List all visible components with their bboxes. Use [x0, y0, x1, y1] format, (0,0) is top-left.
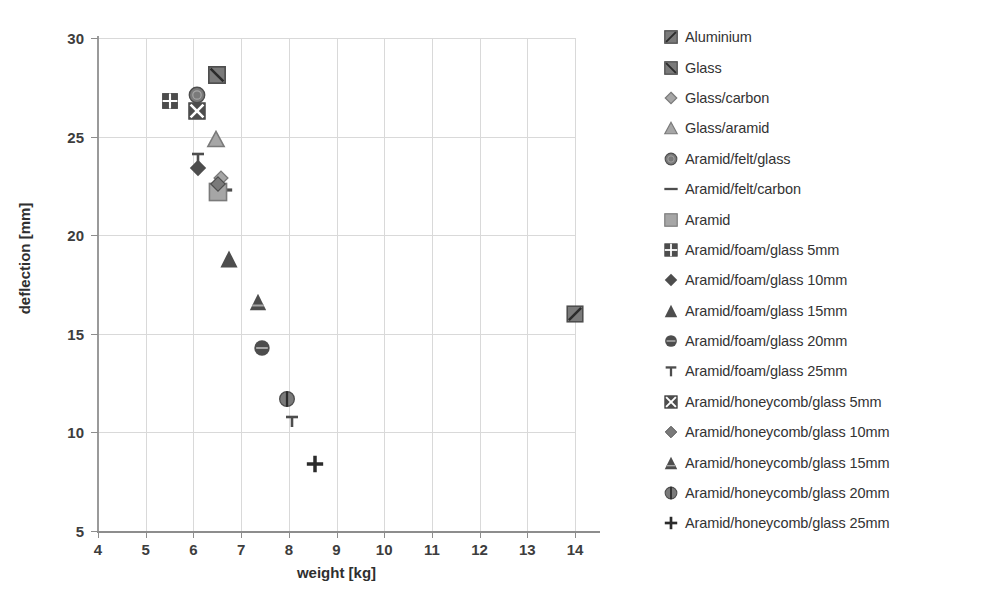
legend-marker-diamond-mid-icon	[660, 421, 682, 443]
gridline-vertical	[480, 38, 481, 531]
legend-item[interactable]: Aramid/honeycomb/glass 25mm	[660, 508, 1004, 538]
plot-area: 4567891011121314 51015202530 weight [kg]…	[0, 0, 660, 616]
legend-item[interactable]: Aramid/honeycomb/glass 10mm	[660, 417, 1004, 447]
x-tick	[432, 531, 433, 538]
legend-item-label: Aramid/foam/glass 20mm	[685, 333, 847, 349]
legend-item[interactable]: Aramid/foam/glass 10mm	[660, 265, 1004, 295]
x-tick	[575, 531, 576, 538]
legend-item[interactable]: Glass/carbon	[660, 83, 1004, 113]
legend: AluminiumGlassGlass/carbonGlass/aramidAr…	[660, 22, 1004, 539]
x-tick	[193, 531, 194, 538]
legend-item-label: Aluminium	[685, 29, 752, 45]
legend-item-label: Aramid/honeycomb/glass 25mm	[685, 515, 889, 531]
legend-item-label: Aramid/foam/glass 5mm	[685, 242, 839, 258]
x-tick	[241, 531, 242, 538]
legend-marker-diamond-open-icon	[660, 87, 682, 109]
x-tick	[384, 531, 385, 538]
gridline-horizontal	[98, 334, 575, 335]
legend-item[interactable]: Aramid/felt/carbon	[660, 174, 1004, 204]
gridline-vertical	[337, 38, 338, 531]
y-axis-line	[97, 36, 99, 533]
x-tick-label: 9	[332, 541, 340, 558]
x-tick	[289, 531, 290, 538]
y-tick-label: 30	[67, 30, 84, 47]
legend-item-label: Aramid	[685, 212, 730, 228]
x-tick-label: 4	[94, 541, 102, 558]
y-tick-label: 15	[67, 325, 84, 342]
legend-item[interactable]: Aramid/foam/glass 5mm	[660, 235, 1004, 265]
legend-item[interactable]: Aramid/foam/glass 20mm	[660, 326, 1004, 356]
legend-item[interactable]: Aramid/foam/glass 25mm	[660, 356, 1004, 386]
legend-marker-circle-open-icon	[660, 148, 682, 170]
legend-item-label: Aramid/felt/carbon	[685, 181, 801, 197]
legend-item[interactable]: Aramid/honeycomb/glass 15mm	[660, 447, 1004, 477]
x-tick-label: 13	[519, 541, 536, 558]
x-tick-label: 12	[471, 541, 488, 558]
x-tick	[146, 531, 147, 538]
y-tick-label: 10	[67, 424, 84, 441]
legend-marker-square-fill-icon	[660, 209, 682, 231]
legend-marker-plus-icon	[660, 512, 682, 534]
x-axis-title: weight [kg]	[98, 564, 575, 581]
legend-item-label: Aramid/foam/glass 15mm	[685, 303, 847, 319]
data-point-square-diag-icon	[565, 304, 585, 324]
plot-canvas	[98, 38, 575, 531]
legend-marker-triangle-open-icon	[660, 117, 682, 139]
legend-item[interactable]: Aramid/honeycomb/glass 5mm	[660, 387, 1004, 417]
legend-item[interactable]: Aramid/honeycomb/glass 20mm	[660, 478, 1004, 508]
gridline-horizontal	[98, 137, 575, 138]
x-tick-label: 7	[237, 541, 245, 558]
legend-item-label: Aramid/felt/glass	[685, 151, 790, 167]
legend-marker-diamond-fill-icon	[660, 269, 682, 291]
y-tick	[91, 531, 98, 532]
chart-root: 4567891011121314 51015202530 weight [kg]…	[0, 0, 1004, 616]
data-point-plus-icon	[304, 453, 325, 474]
legend-item-label: Glass/carbon	[685, 90, 769, 106]
x-tick	[98, 531, 99, 538]
y-tick	[91, 137, 98, 138]
legend-marker-tee-icon	[660, 360, 682, 382]
legend-item[interactable]: Glass	[660, 52, 1004, 82]
x-axis-line	[97, 531, 600, 533]
legend-item[interactable]: Aramid	[660, 204, 1004, 234]
legend-marker-triangle-fill-icon	[660, 300, 682, 322]
data-point-square-plus-icon	[160, 92, 179, 111]
x-tick	[480, 531, 481, 538]
x-tick-label: 11	[424, 541, 440, 558]
legend-item[interactable]: Aluminium	[660, 22, 1004, 52]
gridline-vertical	[384, 38, 385, 531]
legend-item[interactable]: Aramid/felt/glass	[660, 144, 1004, 174]
gridline-vertical	[146, 38, 147, 531]
legend-item-label: Aramid/honeycomb/glass 5mm	[685, 394, 881, 410]
legend-marker-triangle-shade-icon	[660, 452, 682, 474]
data-point-square-backdiag-icon	[207, 65, 228, 86]
data-point-circle-half-icon	[277, 389, 297, 409]
x-tick-label: 8	[285, 541, 293, 558]
y-tick	[91, 334, 98, 335]
legend-item-label: Aramid/foam/glass 25mm	[685, 363, 847, 379]
x-tick	[337, 531, 338, 538]
data-point-tee-icon	[189, 149, 207, 167]
legend-item-label: Aramid/honeycomb/glass 10mm	[685, 424, 889, 440]
legend-marker-square-diag-icon	[660, 26, 682, 48]
data-point-triangle-open-icon	[205, 128, 226, 149]
legend-marker-circle-half-icon	[660, 482, 682, 504]
legend-item-label: Aramid/foam/glass 10mm	[685, 272, 847, 288]
data-point-diamond-mid-icon	[208, 174, 228, 194]
gridline-vertical	[575, 38, 576, 531]
legend-marker-square-plus-icon	[660, 239, 682, 261]
x-tick-label: 6	[189, 541, 197, 558]
legend-item[interactable]: Aramid/foam/glass 15mm	[660, 296, 1004, 326]
y-tick	[91, 38, 98, 39]
legend-item[interactable]: Glass/aramid	[660, 113, 1004, 143]
legend-marker-dash-icon	[660, 178, 682, 200]
data-point-triangle-fill-icon	[218, 248, 240, 270]
gridline-vertical	[241, 38, 242, 531]
y-tick-label: 5	[76, 523, 84, 540]
x-tick	[527, 531, 528, 538]
legend-item-label: Glass/aramid	[685, 120, 769, 136]
x-tick-label: 14	[567, 541, 584, 558]
y-axis-title: deflection [mm]	[16, 159, 33, 359]
legend-marker-square-backdiag-icon	[660, 57, 682, 79]
data-point-triangle-shade-icon	[247, 292, 268, 313]
